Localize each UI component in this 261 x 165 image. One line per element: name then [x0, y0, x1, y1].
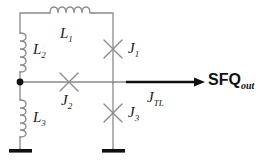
circuit-node-dot — [17, 79, 24, 86]
sfq-output-label: SFQout — [208, 72, 254, 91]
inductor-L1-coil — [50, 7, 93, 13]
inductor-L1-label: L1 — [60, 26, 73, 44]
sfq-output-arrow — [126, 78, 205, 87]
josephson-junction-J2-label: J2 — [61, 93, 72, 111]
inductor-L3-label: L3 — [33, 110, 46, 128]
inductor-L3-coil — [20, 100, 26, 137]
ground-symbol-left — [9, 148, 32, 153]
ground-symbol-right — [102, 148, 125, 153]
circuit-diagram: L1 L2 L3 J1 J2 J3 JTL SFQout — [0, 0, 261, 165]
transmission-line-JTL-label: JTL — [147, 90, 164, 108]
wire-top-right — [93, 13, 113, 83]
inductor-L2-label: L2 — [33, 42, 46, 60]
wire-top-left — [20, 13, 50, 33]
josephson-junction-J1-label: J1 — [128, 41, 139, 59]
inductor-L2-coil — [20, 33, 26, 72]
josephson-junction-J3-label: J3 — [128, 105, 139, 123]
